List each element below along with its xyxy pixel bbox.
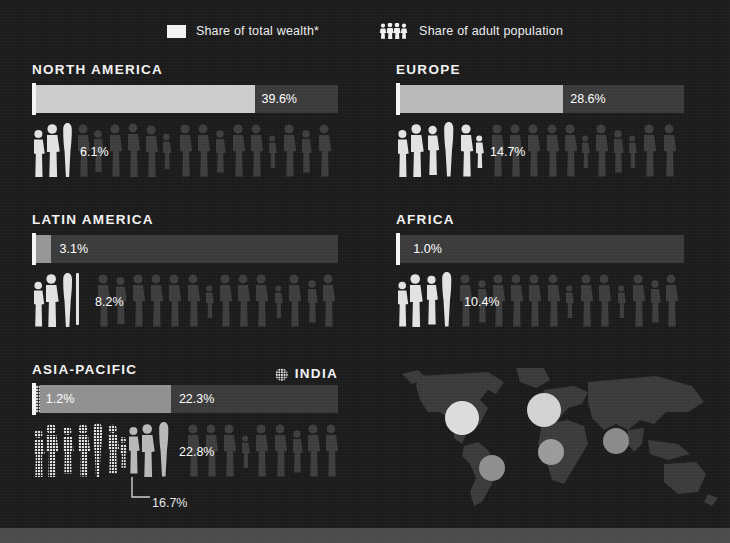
region-panel-latin-america: LATIN AMERICA 3.1% — [32, 212, 338, 327]
population-row-north-america: 6.1% — [32, 121, 338, 177]
wealth-bar-value: 1.0% — [413, 235, 442, 263]
wealth-bar-origin-tick — [32, 83, 36, 115]
region-panel-europe: EUROPE 28.6% — [396, 62, 684, 177]
population-row-europe: 14.7% — [396, 121, 684, 177]
wealth-bar-value: 22.3% — [179, 385, 214, 413]
legend-label-wealth: Share of total wealth* — [196, 24, 319, 38]
india-label: INDIA — [295, 366, 338, 381]
region-title-north-america: NORTH AMERICA — [32, 62, 163, 77]
population-value-asia-pacific: 22.8% — [179, 445, 214, 459]
wealth-bar-value: 3.1% — [60, 235, 89, 263]
wealth-bar-fill — [396, 85, 563, 113]
wealth-bar-asia-pacific: 1.2% 22.3% — [32, 385, 338, 413]
legend-item-population: Share of adult population — [379, 23, 563, 39]
legend-item-wealth: Share of total wealth* — [167, 23, 319, 39]
footer-band — [0, 528, 730, 543]
bar-swatch-icon — [167, 25, 186, 38]
population-row-latin-america: 8.2% — [32, 271, 338, 327]
region-title-latin-america: LATIN AMERICA — [32, 212, 154, 227]
wealth-bar-africa: 1.0% — [396, 235, 684, 263]
region-title-europe: EUROPE — [396, 62, 461, 77]
india-sub-legend: INDIA — [275, 366, 338, 381]
wealth-bar-value: 39.6% — [262, 85, 297, 113]
people-silhouettes — [32, 271, 338, 327]
population-row-africa: 10.4% — [396, 271, 684, 327]
region-panel-africa: AFRICA 1.0% — [396, 212, 684, 327]
infographic-canvas: Share of total wealth* Share of adult po… — [0, 0, 730, 543]
wealth-bar-europe: 28.6% — [396, 85, 684, 113]
top-band — [0, 0, 730, 8]
wealth-bar-origin-tick — [396, 83, 400, 115]
people-silhouettes — [396, 121, 684, 177]
world-map — [392, 368, 722, 508]
population-value-africa: 10.4% — [464, 295, 499, 309]
wealth-bar-value-india: 1.2% — [46, 385, 75, 413]
wealth-bar-origin-tick — [32, 233, 36, 265]
region-panel-asia-pacific: ASIA-PACIFIC INDIA — [32, 362, 338, 477]
region-title-africa: AFRICA — [396, 212, 455, 227]
people-group-icon — [379, 23, 409, 39]
population-value-north-america: 6.1% — [80, 145, 109, 159]
population-row-asia-pacific: 22.8% 16.7% — [32, 421, 338, 477]
people-silhouettes — [32, 121, 338, 177]
legend-label-population: Share of adult population — [419, 24, 563, 38]
wealth-bar-fill — [32, 85, 255, 113]
wealth-bar-origin-tick — [396, 233, 400, 265]
region-panel-north-america: NORTH AMERICA 39.6% — [32, 62, 338, 177]
globe-grid-icon — [275, 367, 288, 380]
population-value-europe: 14.7% — [490, 145, 525, 159]
india-population-leader-line — [130, 477, 152, 503]
wealth-bar-value: 28.6% — [570, 85, 605, 113]
legend: Share of total wealth* Share of adult po… — [0, 23, 730, 39]
india-population-value: 16.7% — [152, 496, 187, 510]
wealth-bar-origin-tick — [32, 383, 36, 415]
wealth-bar-latin-america: 3.1% — [32, 235, 338, 263]
people-silhouettes — [396, 271, 684, 327]
wealth-bar-north-america: 39.6% — [32, 85, 338, 113]
population-value-latin-america: 8.2% — [95, 295, 124, 309]
region-title-asia-pacific: ASIA-PACIFIC — [32, 362, 137, 377]
